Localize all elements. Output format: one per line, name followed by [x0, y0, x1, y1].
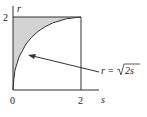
- shaded-region: [13, 17, 81, 90]
- equation-lhs: r: [101, 65, 105, 76]
- x-tick-0: 0: [10, 95, 15, 106]
- arrowhead-icon: [28, 54, 36, 59]
- equation-rhs: 2s: [125, 65, 134, 76]
- r-axis-label: r: [17, 3, 21, 14]
- y-tick-2: 2: [3, 12, 8, 23]
- annotation-arrow: [33, 56, 99, 72]
- s-axis-label: s: [101, 94, 105, 105]
- diagram: r s 2 0 2 r = 2s: [0, 0, 147, 117]
- x-tick-2: 2: [78, 95, 83, 106]
- equation-eq: =: [108, 65, 114, 76]
